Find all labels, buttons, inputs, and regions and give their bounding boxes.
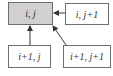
- arrow-diagonal-to-current: [53, 26, 66, 45]
- dependency-arrows: [0, 0, 113, 76]
